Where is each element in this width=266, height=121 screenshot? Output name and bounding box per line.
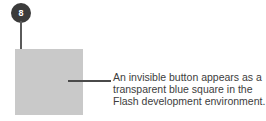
caption-text: An invisible button appears as a transpa… (113, 71, 265, 108)
caption-line-2: transparent blue square in the (113, 83, 265, 95)
caption-leader-line (68, 80, 111, 82)
figure-illustration: 8 An invisible button appears as a trans… (0, 0, 266, 121)
caption-line-1: An invisible button appears as a (113, 71, 265, 83)
caption-line-3: Flash development environment. (113, 95, 265, 107)
invisible-button-square (15, 49, 83, 115)
callout-number-badge: 8 (11, 3, 31, 23)
